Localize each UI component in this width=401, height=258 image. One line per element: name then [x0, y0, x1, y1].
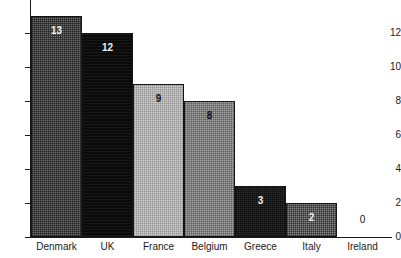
- category-label-greece: Greece: [235, 241, 286, 253]
- bar-uk[interactable]: 12: [82, 33, 133, 237]
- bar-chart: 121086420 131298320 DenmarkUKFranceBelgi…: [0, 0, 401, 258]
- x-axis-line: [30, 237, 392, 238]
- category-label-ireland: Ireland: [337, 241, 388, 253]
- category-label-uk: UK: [82, 241, 133, 253]
- bar-value-label: 0: [337, 215, 388, 225]
- category-label-italy: Italy: [286, 241, 337, 253]
- bar-belgium[interactable]: 8: [184, 101, 235, 237]
- bar-italy[interactable]: 2: [286, 203, 337, 237]
- bar-value-label: 3: [236, 196, 285, 206]
- bar-value-label: 12: [83, 43, 132, 53]
- bar-france[interactable]: 9: [133, 84, 184, 237]
- bar-greece[interactable]: 3: [235, 186, 286, 237]
- plot-area: 131298320: [31, 0, 392, 237]
- category-label-france: France: [133, 241, 184, 253]
- bar-value-label: 13: [32, 26, 81, 36]
- bar-value-label: 9: [134, 94, 183, 104]
- category-label-denmark: Denmark: [31, 241, 82, 253]
- bar-value-label: 2: [287, 213, 336, 223]
- bar-denmark[interactable]: 13: [31, 16, 82, 237]
- bar-value-label: 8: [185, 111, 234, 121]
- category-label-belgium: Belgium: [184, 241, 235, 253]
